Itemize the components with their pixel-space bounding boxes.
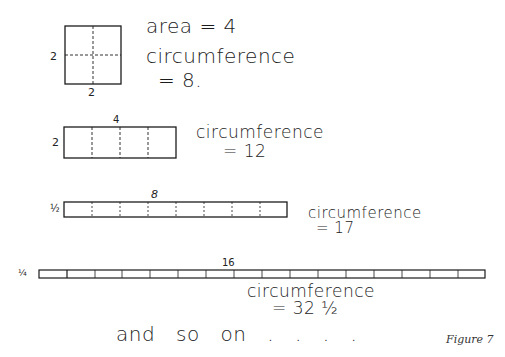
rect-8xhalf-shape (64, 202, 287, 217)
rect-16xquarter-shape (39, 270, 485, 278)
square-area-text: area = 4 (146, 14, 237, 38)
rect4-side-label: ¼ (18, 268, 27, 278)
rect3-circumference-value: = 17 (316, 219, 354, 237)
closing-text: and so on . . . . (116, 322, 357, 346)
rect3-side-label: ½ (50, 203, 60, 214)
rect2-circumference-label: circumference (196, 122, 324, 142)
rect2-circumference-value: = 12 (223, 141, 266, 161)
figure-caption: Figure 7 (446, 333, 494, 346)
square-shape (65, 26, 121, 84)
square-bottom-label: 2 (88, 86, 95, 99)
rect3-top-label: 8 (151, 188, 158, 201)
rect-4x2-shape (64, 127, 176, 158)
rect4-circumference-value: = 32 ½ (272, 298, 338, 318)
rect2-top-label: 4 (113, 114, 119, 125)
square-circumference-label: circumference (146, 44, 295, 68)
square-circumference-value: = 8. (158, 68, 202, 92)
rect2-side-label: 2 (52, 136, 59, 149)
rect4-top-label: 16 (222, 257, 235, 268)
square-side-label: 2 (50, 50, 57, 63)
